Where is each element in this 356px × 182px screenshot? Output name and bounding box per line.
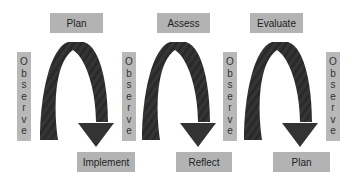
curved-arrow-icon — [40, 42, 114, 147]
observe-letter: v — [127, 114, 132, 126]
observe-letter: b — [21, 68, 27, 80]
observe-letter: s — [331, 79, 336, 91]
observe-letter: e — [126, 125, 132, 137]
observe-letter: O — [329, 56, 337, 68]
observe-label: O b s e r v e — [17, 52, 31, 141]
observe-letter: b — [330, 68, 336, 80]
observe-letter: s — [228, 79, 233, 91]
observe-letter: e — [227, 125, 233, 137]
observe-letter: e — [126, 91, 132, 103]
top-label-evaluate: Evaluate — [250, 13, 303, 33]
observe-letter: v — [228, 114, 233, 126]
observe-letter: e — [21, 91, 27, 103]
observe-letter: v — [331, 114, 336, 126]
curved-arrow-icon — [142, 42, 216, 147]
observe-letter: v — [22, 114, 27, 126]
observe-letter: e — [21, 125, 27, 137]
observe-letter: s — [22, 79, 27, 91]
curved-arrow-icon — [244, 42, 318, 147]
observe-letter: e — [227, 91, 233, 103]
observe-letter: e — [330, 125, 336, 137]
bottom-label-reflect: Reflect — [176, 152, 232, 172]
top-label-assess: Assess — [157, 13, 210, 33]
observe-letter: O — [20, 56, 28, 68]
bottom-label-plan: Plan — [273, 152, 330, 172]
bottom-label-implement: Implement — [77, 152, 135, 172]
observe-letter: r — [331, 102, 334, 114]
observe-label: O b s e r v e — [326, 52, 340, 141]
observe-letter: r — [127, 102, 130, 114]
observe-label: O b s e r v e — [223, 52, 237, 141]
observe-label: O b s e r v e — [122, 52, 136, 141]
observe-letter: b — [126, 68, 132, 80]
observe-letter: b — [227, 68, 233, 80]
observe-letter: e — [330, 91, 336, 103]
top-label-plan: Plan — [50, 13, 103, 33]
observe-letter: O — [125, 56, 133, 68]
observe-letter: r — [228, 102, 231, 114]
observe-letter: r — [22, 102, 25, 114]
observe-letter: O — [226, 56, 234, 68]
observe-letter: s — [127, 79, 132, 91]
